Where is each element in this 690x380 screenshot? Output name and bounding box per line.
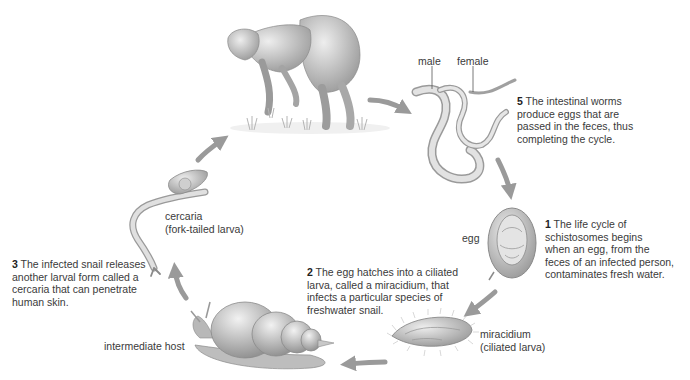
step-3-text: 3 The infected snail releases another la… [12,258,145,308]
human-host-figure [228,15,390,134]
label-male: male [418,55,441,68]
step-description: The egg hatches into a ciliated larva, c… [307,266,458,316]
step-description: The life cycle of schistosomes begins wh… [545,218,674,280]
label-miracidium: miracidium (ciliated larva) [480,328,545,353]
label-female: female [457,55,489,68]
step-number: 3 [12,258,18,270]
step-1-text: 1 The life cycle of schistosomes begins … [545,218,674,281]
step-5-text: 5 The intestinal worms produce eggs that… [517,95,633,145]
arrow-worms-to-egg [498,160,510,192]
label-cercaria: cercaria (fork-tailed larva) [165,210,244,235]
arrow-cercaria-to-human [198,140,222,160]
illustration-layer [0,0,690,380]
life-cycle-diagram: male female egg miracidium (ciliated lar… [0,0,690,380]
step-number: 1 [545,218,551,230]
step-description: The infected snail releases another larv… [12,258,145,308]
label-intermediate-host: intermediate host [104,340,185,353]
arrow-snail-to-cercaria [175,270,186,298]
egg-figure [488,208,536,280]
step-number: 5 [517,95,523,107]
arrow-egg-to-miracidium [470,292,495,312]
step-2-text: 2 The egg hatches into a ciliated larva,… [307,266,458,316]
step-description: The intestinal worms produce eggs that a… [517,95,633,145]
label-egg: egg [462,232,480,245]
step-number: 2 [307,266,313,278]
arrow-human-to-worms [370,100,405,110]
arrow-miracidium-to-snail [348,362,385,364]
